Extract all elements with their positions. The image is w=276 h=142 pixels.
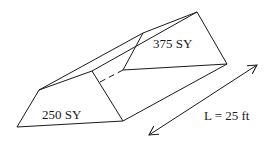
front-area-label: 250 SY (42, 107, 82, 122)
length-label: L = 25 ft (204, 108, 250, 123)
back-area-label: 375 SY (153, 36, 193, 51)
hidden-bottom-edge (100, 70, 123, 82)
prismoid-diagram: 250 SY 375 SY L = 25 ft (0, 0, 276, 142)
length-dimension-arrow (149, 65, 257, 135)
